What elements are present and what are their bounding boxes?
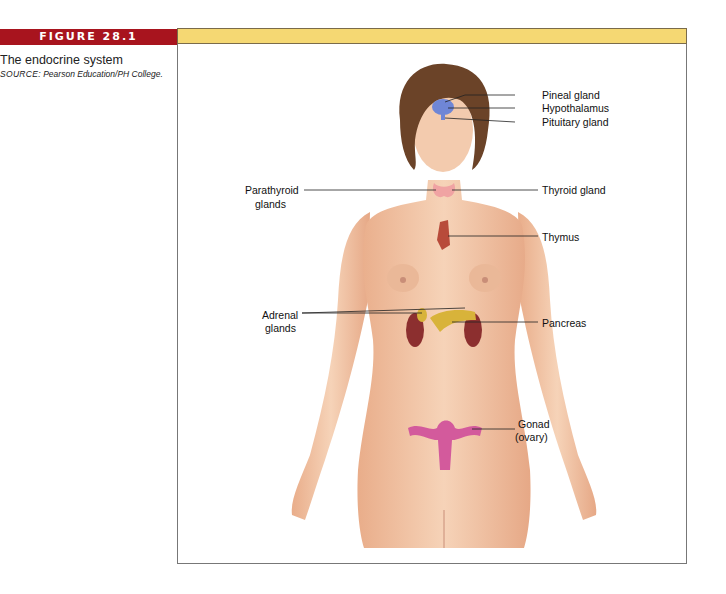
label-adrenal: Adrenal xyxy=(262,309,298,322)
label-gonad-ovary: (ovary) xyxy=(515,431,548,444)
label-gonad: Gonad xyxy=(518,418,550,431)
label-thymus: Thymus xyxy=(542,231,579,244)
adrenal-shape xyxy=(417,308,427,322)
label-pancreas: Pancreas xyxy=(542,317,586,330)
label-parathyroid-glands: glands xyxy=(255,198,286,211)
label-thyroid-gland: Thyroid gland xyxy=(542,184,606,197)
endocrine-illustration xyxy=(0,0,726,594)
label-hypothalamus: Hypothalamus xyxy=(542,102,609,115)
body-figure xyxy=(292,64,597,548)
label-parathyroid: Parathyroid xyxy=(245,184,299,197)
label-pineal-gland: Pineal gland xyxy=(542,89,600,102)
label-adrenal-glands: glands xyxy=(265,322,296,335)
label-pituitary-gland: Pituitary gland xyxy=(542,116,609,129)
